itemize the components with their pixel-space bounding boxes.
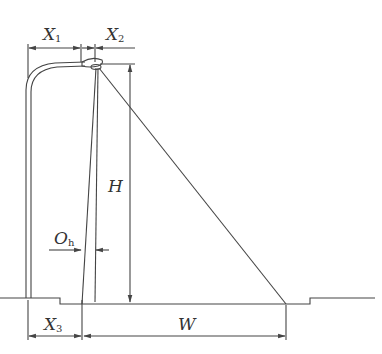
- vertical-ray: [95, 68, 98, 302]
- ground-line: [0, 298, 375, 304]
- w-label: W: [178, 314, 197, 334]
- nadir-ray: [82, 68, 96, 304]
- diagonal-ray: [99, 68, 286, 304]
- lamp-pole: [26, 62, 85, 298]
- x1-label: X1: [41, 24, 61, 44]
- street-lamp-diagram: X1 X2 H Oh X3 W: [0, 0, 382, 354]
- h-label: H: [107, 176, 124, 196]
- x2-label: X2: [104, 24, 124, 44]
- x3-label: X3: [42, 314, 62, 334]
- oh-label: Oh: [54, 228, 75, 248]
